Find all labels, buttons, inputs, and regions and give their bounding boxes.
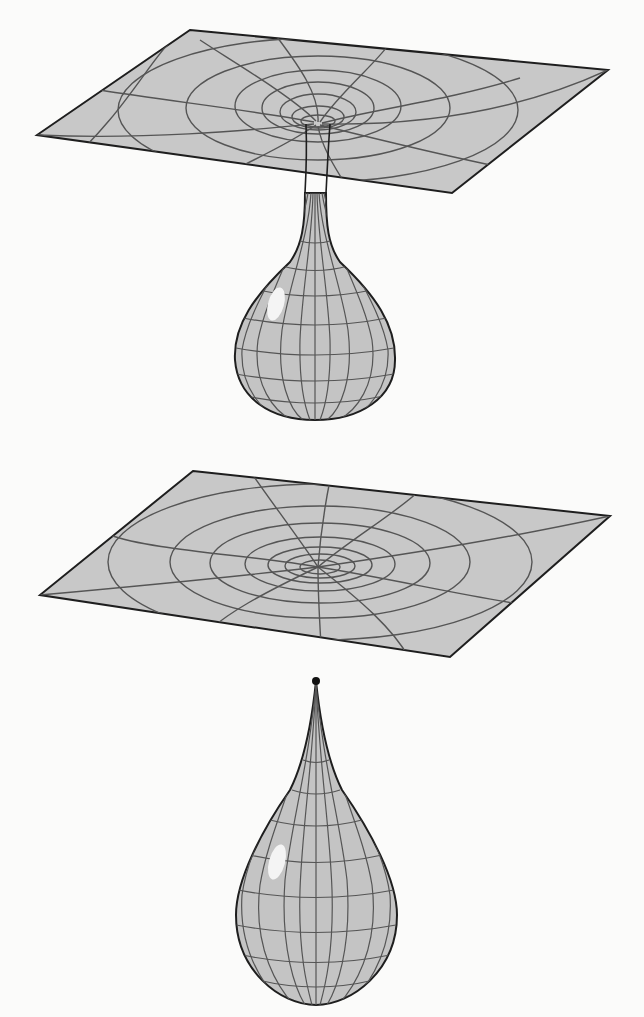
bottom-surface	[40, 471, 610, 660]
top-surface	[37, 30, 608, 195]
top-bubble	[235, 193, 395, 420]
illustration-canvas	[0, 0, 644, 1017]
pinch-point-dot	[312, 677, 320, 685]
bottom-bubble	[236, 677, 397, 1005]
